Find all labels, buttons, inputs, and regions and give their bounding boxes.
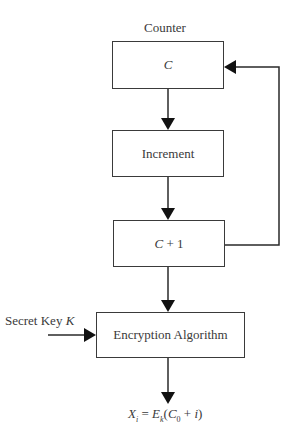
arrowhead-icon — [161, 300, 175, 312]
increment-box-label: Increment — [142, 146, 195, 162]
output-formula: Xi = Ek(C0 + i) — [128, 406, 202, 424]
counter-box: C — [112, 41, 224, 89]
equals: = — [138, 406, 152, 421]
arrowhead-icon — [161, 392, 175, 404]
secret-key-label: Secret Key K — [5, 313, 74, 329]
encryption-box: Encryption Algorithm — [96, 312, 245, 358]
arrowhead-icon — [84, 328, 96, 342]
encryption-box-label: Encryption Algorithm — [113, 327, 227, 343]
arrowhead-icon — [224, 60, 236, 74]
counter-box-label: C — [164, 57, 173, 73]
arrowhead-icon — [161, 118, 175, 130]
c-plus-1-box: C + 1 — [113, 220, 225, 267]
counter-label: Counter — [144, 20, 186, 36]
secret-key-var: K — [66, 313, 75, 328]
close-paren: ) — [198, 406, 202, 421]
plus: + — [181, 406, 195, 421]
c0-var: C — [168, 406, 177, 421]
c-plus-1-label: C + 1 — [154, 236, 183, 252]
plus-one: + 1 — [163, 236, 183, 251]
secret-key-text: Secret Key — [5, 313, 66, 328]
e-var: E — [152, 406, 160, 421]
increment-box: Increment — [112, 130, 224, 177]
x-var: X — [128, 406, 136, 421]
c-var: C — [154, 236, 163, 251]
arrowhead-icon — [161, 208, 175, 220]
